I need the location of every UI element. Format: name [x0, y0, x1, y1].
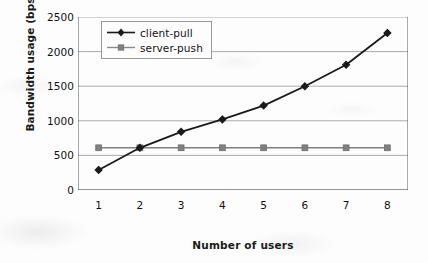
chart-figure: Bandwidth usage (bps) 050010001500200025… — [0, 0, 428, 263]
plot-area: client-pull server-push — [78, 17, 408, 190]
data-point-marker — [384, 145, 390, 151]
x-tick-label: 1 — [88, 199, 110, 211]
x-tick-label: 8 — [376, 199, 398, 211]
legend-item-server-push: server-push — [106, 40, 203, 55]
data-point-marker — [178, 128, 185, 135]
legend-label-server-push: server-push — [140, 42, 203, 54]
data-point-marker — [219, 116, 226, 123]
x-tick-label: 7 — [335, 199, 357, 211]
data-point-marker — [219, 145, 225, 151]
legend-label-client-pull: client-pull — [140, 27, 193, 39]
chart-legend: client-pull server-push — [101, 21, 212, 59]
data-point-marker — [178, 145, 184, 151]
data-point-marker — [301, 83, 308, 90]
data-point-marker — [96, 145, 102, 151]
legend-key-line-diamond-icon — [106, 27, 136, 38]
data-point-marker — [343, 145, 349, 151]
x-tick-label: 6 — [294, 199, 316, 211]
x-axis-title: Number of users — [78, 239, 408, 251]
data-point-marker — [261, 145, 267, 151]
data-point-marker — [302, 145, 308, 151]
legend-item-client-pull: client-pull — [106, 25, 203, 40]
data-point-marker — [95, 167, 102, 174]
x-tick-label: 3 — [170, 199, 192, 211]
legend-key-line-square-icon — [106, 42, 136, 53]
x-tick-label: 4 — [211, 199, 233, 211]
x-tick-label: 5 — [253, 199, 275, 211]
data-point-marker — [260, 102, 267, 109]
x-tick-label: 2 — [129, 199, 151, 211]
